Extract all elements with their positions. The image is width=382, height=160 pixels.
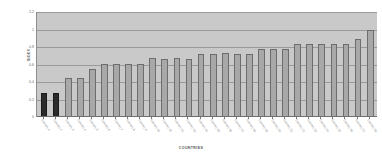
y-axis-tick-label: 0.8 bbox=[29, 45, 34, 49]
bar-slot bbox=[328, 12, 340, 117]
x-label-slot: Country 15 bbox=[206, 119, 218, 143]
bar-slot bbox=[267, 12, 279, 117]
x-axis-category-labels: Country 1Country 2Country 3Country 4Coun… bbox=[36, 119, 376, 143]
bar-slot bbox=[183, 12, 195, 117]
bar[interactable] bbox=[137, 64, 144, 117]
x-label-slot: Country 1 bbox=[37, 119, 49, 143]
x-label-slot: Country 22 bbox=[291, 119, 303, 143]
bar[interactable] bbox=[186, 59, 193, 117]
x-label-slot: Country 12 bbox=[170, 119, 182, 143]
bar-slot bbox=[147, 12, 159, 117]
bar-slot bbox=[38, 12, 50, 117]
x-label-slot: Country 6 bbox=[97, 119, 109, 143]
x-label-slot: Country 7 bbox=[109, 119, 121, 143]
x-label-slot: Country 5 bbox=[85, 119, 97, 143]
bar[interactable] bbox=[246, 54, 253, 117]
bar-slot bbox=[316, 12, 328, 117]
bar-slot bbox=[62, 12, 74, 117]
x-label-slot: Country 2 bbox=[49, 119, 61, 143]
bar-slot bbox=[207, 12, 219, 117]
bar[interactable] bbox=[258, 49, 265, 117]
x-label-slot: Country 13 bbox=[182, 119, 194, 143]
bar-slot bbox=[231, 12, 243, 117]
x-axis-title: COUNTRIES bbox=[0, 146, 382, 150]
bar-slot bbox=[340, 12, 352, 117]
x-label-slot: Country 17 bbox=[230, 119, 242, 143]
bar-slot bbox=[86, 12, 98, 117]
bar[interactable] bbox=[306, 44, 313, 118]
bar[interactable] bbox=[125, 64, 132, 117]
bar-slot bbox=[304, 12, 316, 117]
bar[interactable] bbox=[113, 64, 120, 117]
x-label-slot: Country 19 bbox=[254, 119, 266, 143]
bar-slot bbox=[50, 12, 62, 117]
bar[interactable] bbox=[222, 53, 229, 117]
bar-slot bbox=[171, 12, 183, 117]
x-label-slot: Country 8 bbox=[122, 119, 134, 143]
y-axis-tick-label: 0 bbox=[32, 115, 34, 119]
x-label-slot: Country 20 bbox=[266, 119, 278, 143]
y-axis-tick-label: 0.6 bbox=[29, 63, 34, 67]
x-axis-category-label: Country 28 bbox=[366, 119, 377, 133]
bar[interactable] bbox=[367, 30, 374, 118]
x-label-slot: Country 28 bbox=[363, 119, 375, 143]
x-label-slot: Country 24 bbox=[315, 119, 327, 143]
bar[interactable] bbox=[234, 54, 241, 117]
x-label-slot: Country 26 bbox=[339, 119, 351, 143]
bar-slot bbox=[159, 12, 171, 117]
x-label-slot: Country 10 bbox=[146, 119, 158, 143]
bar-slot bbox=[243, 12, 255, 117]
bar-slot bbox=[98, 12, 110, 117]
bar[interactable] bbox=[53, 93, 60, 117]
bar[interactable] bbox=[331, 44, 338, 118]
bar-slot bbox=[123, 12, 135, 117]
x-label-slot: Country 18 bbox=[242, 119, 254, 143]
x-label-slot: Country 23 bbox=[303, 119, 315, 143]
bar-series bbox=[37, 12, 377, 117]
bar-chart: INDEX 00.20.40.60.811.2 Country 1Country… bbox=[0, 0, 382, 160]
y-axis-tick-label: 1 bbox=[32, 28, 34, 32]
bar-slot bbox=[364, 12, 376, 117]
bar[interactable] bbox=[149, 58, 156, 117]
bar-slot bbox=[219, 12, 231, 117]
bar[interactable] bbox=[270, 49, 277, 117]
bar-slot bbox=[195, 12, 207, 117]
x-label-slot: Country 4 bbox=[73, 119, 85, 143]
x-label-slot: Country 21 bbox=[279, 119, 291, 143]
bar-slot bbox=[352, 12, 364, 117]
x-label-slot: Country 9 bbox=[134, 119, 146, 143]
bar[interactable] bbox=[343, 44, 350, 118]
bar-slot bbox=[135, 12, 147, 117]
plot-area bbox=[36, 12, 377, 117]
bar[interactable] bbox=[294, 44, 301, 118]
bar-slot bbox=[292, 12, 304, 117]
x-label-slot: Country 11 bbox=[158, 119, 170, 143]
bar[interactable] bbox=[101, 64, 108, 117]
x-label-slot: Country 27 bbox=[351, 119, 363, 143]
x-label-slot: Country 14 bbox=[194, 119, 206, 143]
x-label-slot: Country 16 bbox=[218, 119, 230, 143]
bar[interactable] bbox=[41, 93, 48, 117]
y-axis-tick-label: 0.4 bbox=[29, 80, 34, 84]
y-axis-tick-label: 0.2 bbox=[29, 98, 34, 102]
bar[interactable] bbox=[174, 58, 181, 117]
bar[interactable] bbox=[161, 59, 168, 117]
y-axis-tick-labels: 00.20.40.60.811.2 bbox=[20, 12, 35, 117]
bar[interactable] bbox=[210, 54, 217, 117]
bar[interactable] bbox=[318, 44, 325, 118]
bar[interactable] bbox=[77, 78, 84, 117]
x-label-slot: Country 3 bbox=[61, 119, 73, 143]
bar-slot bbox=[74, 12, 86, 117]
x-label-slot: Country 25 bbox=[327, 119, 339, 143]
bar[interactable] bbox=[282, 49, 289, 117]
y-axis-tick-label: 1.2 bbox=[29, 10, 34, 14]
bar-slot bbox=[255, 12, 267, 117]
bar[interactable] bbox=[355, 39, 362, 117]
bar[interactable] bbox=[89, 69, 96, 117]
bar[interactable] bbox=[65, 78, 72, 117]
bar-slot bbox=[280, 12, 292, 117]
bar-slot bbox=[110, 12, 122, 117]
bar[interactable] bbox=[198, 54, 205, 117]
